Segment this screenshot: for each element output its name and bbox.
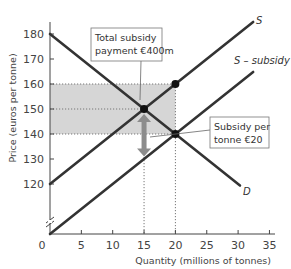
price-change-arrow-shaft bbox=[142, 121, 147, 150]
axis-break-gap bbox=[48, 220, 52, 223]
y-tick-label: 180 bbox=[23, 28, 44, 41]
annotation-text: tonne €20 bbox=[214, 134, 263, 145]
x-tick-label: 15 bbox=[137, 239, 151, 252]
marker-supply-price-with-subsidy bbox=[171, 80, 179, 88]
y-tick-label: 130 bbox=[23, 153, 44, 166]
subsidy-chart: 12013014015016017018005101520253035Quant… bbox=[0, 0, 291, 269]
y-tick-label: 140 bbox=[23, 128, 44, 141]
x-tick-label: 30 bbox=[231, 239, 245, 252]
x-tick-label: 25 bbox=[200, 239, 214, 252]
annotation-text: Subsidy per bbox=[214, 121, 270, 132]
curve-label-d: D bbox=[243, 186, 251, 197]
y-tick-label: 170 bbox=[23, 53, 44, 66]
x-tick-label: 0 bbox=[39, 239, 46, 252]
y-tick-label: 150 bbox=[23, 103, 44, 116]
x-tick-label: 10 bbox=[106, 239, 120, 252]
x-tick-label: 20 bbox=[168, 239, 182, 252]
annotation-text: payment €400m bbox=[95, 45, 174, 56]
y-tick-label: 160 bbox=[23, 78, 44, 91]
annotation-text: Total subsidy bbox=[94, 32, 157, 43]
marker-original-equilibrium bbox=[140, 105, 148, 113]
x-axis-title: Quantity (millions of tonnes) bbox=[135, 255, 271, 266]
curve-label-s-subsidy: S – subsidy bbox=[234, 55, 291, 66]
y-tick-label: 120 bbox=[23, 178, 44, 191]
x-tick-label: 35 bbox=[262, 239, 276, 252]
y-axis-title: Price (euros per tonne) bbox=[7, 53, 18, 162]
curve-label-s: S bbox=[256, 15, 263, 26]
x-tick-label: 5 bbox=[78, 239, 85, 252]
